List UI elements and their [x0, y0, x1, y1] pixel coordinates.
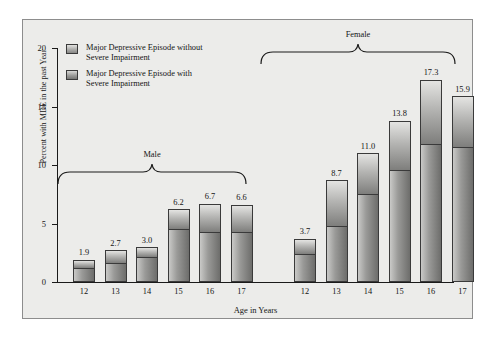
bar-male-age-12: 1.9	[73, 260, 95, 282]
x-tick-label: 17	[222, 287, 262, 296]
male-group-bracket	[57, 163, 247, 185]
bar-female-age-14: 11.0	[357, 153, 379, 282]
bar-segment-without-impairment	[168, 209, 190, 230]
legend-label-line1: Major Depressive Episode with	[86, 69, 296, 79]
bar-segment-with-impairment	[452, 147, 474, 282]
female-group-label: Female	[318, 30, 398, 39]
bar-segment-without-impairment	[326, 180, 348, 227]
bar-segment-without-impairment	[294, 239, 316, 255]
bar-segment-without-impairment	[420, 80, 442, 145]
female-group-bracket	[260, 43, 456, 65]
legend-label-line2: Severe Impairment	[86, 79, 296, 89]
bar-value-label: 3.7	[285, 228, 325, 236]
legend-item-with-impairment: Major Depressive Episode with Severe Imp…	[66, 69, 296, 89]
bar-segment-with-impairment	[231, 232, 253, 282]
bar-segment-with-impairment	[136, 257, 158, 282]
bar-segment-with-impairment	[73, 268, 95, 282]
bar-male-age-14: 3.0	[136, 247, 158, 282]
bar-male-age-15: 6.2	[168, 209, 190, 282]
bar-value-label: 6.6	[222, 194, 262, 202]
legend-swatch-dark-icon	[66, 70, 78, 80]
bar-segment-with-impairment	[420, 144, 442, 282]
bar-segment-with-impairment	[389, 170, 411, 282]
bar-female-age-16: 17.3	[420, 80, 442, 282]
y-axis-title: Percent with MDE in the past Year	[39, 12, 48, 202]
bar-female-age-15: 13.8	[389, 121, 411, 282]
bar-value-label: 3.0	[127, 237, 167, 245]
bar-value-label: 11.0	[348, 143, 388, 151]
bar-male-age-13: 2.7	[105, 250, 127, 282]
bar-female-age-17: 15.9	[452, 96, 474, 282]
x-axis-title: Age in Years	[57, 305, 454, 315]
bar-segment-without-impairment	[231, 205, 253, 233]
bar-value-label: 1.9	[64, 249, 104, 257]
bar-female-age-12: 3.7	[294, 239, 316, 282]
bar-segment-without-impairment	[357, 153, 379, 195]
figure-container: 20151050 Percent with MDE in the past Ye…	[0, 0, 501, 337]
bar-segment-without-impairment	[452, 96, 474, 148]
bar-value-label: 13.8	[380, 110, 420, 118]
bar-male-age-17: 6.6	[231, 205, 253, 282]
bar-female-age-13: 8.7	[326, 180, 348, 282]
bar-segment-with-impairment	[199, 232, 221, 282]
bar-segment-with-impairment	[357, 194, 379, 282]
y-tick-label: 5	[20, 220, 46, 229]
bar-male-age-16: 6.7	[199, 204, 221, 282]
bar-segment-without-impairment	[105, 250, 127, 264]
bar-value-label: 17.3	[411, 69, 451, 77]
bar-segment-with-impairment	[294, 254, 316, 282]
male-group-label: Male	[112, 150, 192, 159]
bar-segment-with-impairment	[326, 226, 348, 282]
bar-value-label: 8.7	[317, 170, 357, 178]
bar-segment-without-impairment	[73, 260, 95, 269]
bar-segment-with-impairment	[105, 263, 127, 282]
y-tick-label: 0	[20, 278, 46, 287]
legend-swatch-light-icon	[66, 44, 78, 54]
bar-value-label: 15.9	[443, 86, 483, 94]
bar-segment-with-impairment	[168, 229, 190, 282]
bar-segment-without-impairment	[389, 121, 411, 171]
x-tick-label: 17	[443, 287, 483, 296]
bar-segment-without-impairment	[199, 204, 221, 233]
bar-segment-without-impairment	[136, 247, 158, 259]
